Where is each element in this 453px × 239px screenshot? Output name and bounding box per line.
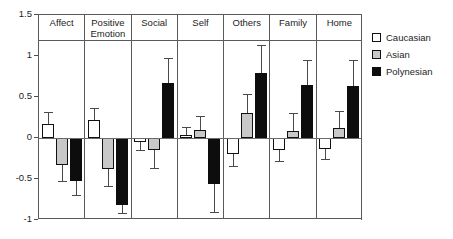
- error-bar-cap-polynesian: [303, 60, 312, 61]
- y-axis: 1.510.50-0.5-1: [0, 0, 38, 239]
- panel-header-social: Social: [132, 15, 178, 40]
- error-bar-cap-caucasian: [90, 108, 99, 109]
- error-bar-cap-asian: [243, 94, 252, 95]
- error-bar-cap-asian: [289, 113, 298, 114]
- panel-self: [178, 15, 224, 218]
- panel-header-label: Affect: [50, 17, 74, 28]
- error-bar-polynesian: [307, 60, 308, 85]
- bar-caucasian: [88, 120, 100, 138]
- y-axis-tick-label: 1.5: [19, 9, 34, 19]
- legend-swatch-asian: [372, 50, 381, 59]
- error-bar-cap-caucasian: [321, 159, 330, 160]
- error-bar-caucasian: [94, 108, 95, 120]
- legend: CaucasianAsianPolynesian: [372, 30, 452, 81]
- panel-header-strip: AffectPositive EmotionSocialSelfOthersFa…: [39, 15, 362, 41]
- bar-asian: [56, 138, 68, 165]
- panel-header-label: Positive Emotion: [85, 17, 130, 39]
- panel-columns: [39, 15, 362, 218]
- error-bar-polynesian: [76, 181, 77, 195]
- error-bar-asian: [200, 116, 201, 130]
- y-axis-tick-label: 1: [27, 50, 34, 60]
- bar-caucasian: [273, 138, 285, 150]
- panel-header-label: Home: [327, 17, 352, 28]
- panel-header-others: Others: [224, 15, 270, 40]
- error-bar-cap-polynesian: [72, 195, 81, 196]
- panel-home: [317, 15, 362, 218]
- error-bar-polynesian: [353, 60, 354, 86]
- bar-group: [39, 15, 84, 218]
- legend-label: Polynesian: [386, 67, 432, 77]
- panel-header-label: Family: [279, 17, 307, 28]
- bar-group: [270, 15, 315, 218]
- error-bar-polynesian: [214, 184, 215, 212]
- panel-header-label: Others: [233, 17, 262, 28]
- y-axis-tick-label: -0.5: [16, 173, 34, 183]
- bar-asian: [241, 113, 253, 138]
- panel-header-positive-emotion: Positive Emotion: [85, 15, 131, 40]
- bar-polynesian: [301, 85, 313, 138]
- legend-item-asian: Asian: [372, 47, 452, 62]
- error-bar-cap-polynesian: [118, 213, 127, 214]
- error-bar-cap-caucasian: [44, 112, 53, 113]
- legend-item-caucasian: Caucasian: [372, 30, 452, 45]
- bar-polynesian: [208, 138, 220, 184]
- error-bar-cap-asian: [58, 181, 67, 182]
- bar-caucasian: [319, 138, 331, 149]
- bar-asian: [148, 138, 160, 150]
- panel-header-self: Self: [178, 15, 224, 40]
- error-bar-cap-polynesian: [349, 60, 358, 61]
- y-axis-tick-label: -1: [24, 214, 34, 224]
- error-bar-cap-polynesian: [257, 45, 266, 46]
- error-bar-cap-asian: [196, 116, 205, 117]
- legend-swatch-caucasian: [372, 33, 381, 42]
- bar-asian: [333, 128, 345, 138]
- panel-affect: [39, 15, 85, 218]
- bar-group: [224, 15, 269, 218]
- error-bar-polynesian: [168, 58, 169, 83]
- error-bar-caucasian: [279, 150, 280, 161]
- y-axis-tick-label: 0.5: [19, 91, 34, 101]
- error-bar-asian: [293, 113, 294, 131]
- bar-asian: [287, 131, 299, 138]
- panel-social: [132, 15, 178, 218]
- bar-polynesian: [70, 138, 82, 181]
- y-axis-tick-label: 0: [27, 132, 34, 142]
- panel-positive-emotion: [85, 15, 131, 218]
- bar-polynesian: [162, 83, 174, 138]
- error-bar-cap-caucasian: [136, 150, 145, 151]
- error-bar-caucasian: [140, 142, 141, 150]
- error-bar-caucasian: [233, 154, 234, 165]
- bar-polynesian: [347, 86, 359, 138]
- error-bar-asian: [339, 111, 340, 128]
- error-bar-caucasian: [48, 112, 49, 124]
- legend-swatch-polynesian: [372, 67, 381, 76]
- zero-baseline: [39, 138, 362, 139]
- bar-chart-figure: 1.510.50-0.5-1 AffectPositive EmotionSoc…: [0, 0, 453, 239]
- panel-family: [270, 15, 316, 218]
- bar-asian: [102, 138, 114, 169]
- plot-right-border: [361, 14, 362, 220]
- bar-caucasian: [227, 138, 239, 154]
- bar-asian: [194, 130, 206, 138]
- error-bar-cap-polynesian: [210, 212, 219, 213]
- error-bar-polynesian: [261, 45, 262, 74]
- error-bar-asian: [154, 150, 155, 167]
- panel-others: [224, 15, 270, 218]
- panel-header-affect: Affect: [39, 15, 85, 40]
- error-bar-asian: [108, 169, 109, 186]
- error-bar-caucasian: [186, 127, 187, 135]
- panel-header-label: Social: [141, 17, 167, 28]
- error-bar-cap-asian: [150, 168, 159, 169]
- error-bar-asian: [247, 94, 248, 114]
- bar-caucasian: [42, 124, 54, 138]
- error-bar-cap-caucasian: [275, 161, 284, 162]
- bar-polynesian: [255, 73, 267, 138]
- panel-header-family: Family: [270, 15, 316, 40]
- panel-header-home: Home: [317, 15, 362, 40]
- legend-label: Asian: [386, 50, 410, 60]
- legend-item-polynesian: Polynesian: [372, 64, 452, 79]
- bar-group: [132, 15, 177, 218]
- bar-group: [85, 15, 130, 218]
- error-bar-cap-polynesian: [164, 58, 173, 59]
- bar-group: [178, 15, 223, 218]
